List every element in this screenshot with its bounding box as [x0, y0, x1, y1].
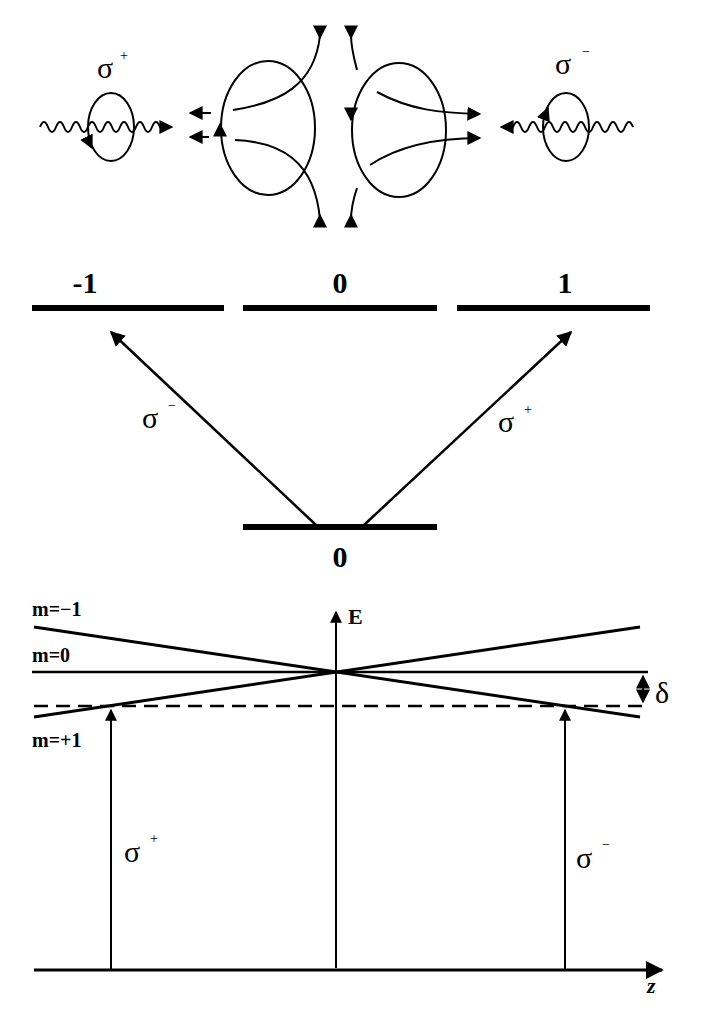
- excited-level-label-plus1: 1: [558, 266, 573, 299]
- level-scheme-panel: -1 0 1 0 σ − σ +: [32, 266, 650, 573]
- excited-level-label-minus1: -1: [73, 266, 98, 299]
- right-wavy-beam-icon: [501, 122, 633, 132]
- left-wavy-beam-icon: [40, 122, 172, 132]
- excited-level-label-0: 0: [333, 266, 348, 299]
- energy-axis-label: E: [348, 604, 363, 629]
- left-beam: σ +: [40, 48, 172, 161]
- beam-sup-sigma-plus: +: [150, 831, 158, 846]
- beam-label-sigma-plus: σ: [124, 835, 140, 868]
- right-polarization-loop-icon: [543, 93, 589, 161]
- mot-beams-panel: σ + σ: [40, 30, 633, 225]
- z-axis-label: z: [646, 973, 656, 998]
- detuning-label: δ: [655, 676, 669, 709]
- left-beam-label: σ: [97, 51, 113, 84]
- right-beam-sup: −: [582, 44, 590, 59]
- right-beam-label: σ: [555, 47, 571, 80]
- transition-sup-sigma-plus: +: [524, 402, 532, 417]
- transition-label-sigma-minus: σ: [142, 401, 158, 434]
- right-coil: [351, 30, 480, 225]
- transition-label-sigma-plus: σ: [498, 405, 514, 438]
- mot-diagram: σ + σ: [0, 0, 707, 1017]
- right-beam: σ −: [501, 44, 633, 161]
- beam-label-sigma-minus: σ: [576, 841, 592, 874]
- beam-sup-sigma-minus: −: [602, 837, 610, 852]
- ground-level-label: 0: [333, 540, 348, 573]
- level-label-m-0: m=0: [32, 644, 70, 666]
- level-label-m-minus1: m=−1: [32, 598, 81, 620]
- transition-arrow-sigma-plus: [364, 332, 571, 525]
- left-coil: [220, 30, 320, 225]
- level-label-m-plus1: m=+1: [32, 729, 81, 751]
- zeeman-panel: E z m=−1 m=0 m=+1 δ σ + σ −: [32, 598, 669, 998]
- transition-sup-sigma-minus: −: [168, 398, 176, 413]
- left-beam-sup: +: [120, 48, 128, 63]
